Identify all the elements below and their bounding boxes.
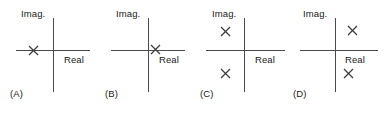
pole-marker-c-1 bbox=[220, 26, 231, 37]
real-axis bbox=[16, 50, 90, 51]
imaginary-axis-label: Imag. bbox=[116, 8, 140, 19]
imaginary-axis-label: Imag. bbox=[21, 8, 45, 19]
real-axis-label: Real bbox=[64, 54, 84, 65]
pole-marker-d-1 bbox=[347, 25, 358, 36]
imaginary-axis bbox=[53, 18, 54, 92]
real-axis bbox=[300, 50, 378, 51]
pole-marker-d-2 bbox=[343, 68, 354, 79]
panel-tag-a: (A) bbox=[10, 88, 23, 99]
real-axis bbox=[206, 50, 285, 51]
panel-tag-b: (B) bbox=[105, 88, 118, 99]
real-axis bbox=[111, 50, 185, 51]
panel-tag-c: (C) bbox=[200, 88, 214, 99]
imaginary-axis bbox=[335, 18, 336, 92]
real-axis-label: Real bbox=[255, 54, 275, 65]
real-axis-label: Real bbox=[345, 54, 365, 65]
imaginary-axis-label: Imag. bbox=[212, 8, 236, 19]
real-axis-label: Real bbox=[159, 54, 179, 65]
panel-b: Imag. Real (B) bbox=[95, 0, 192, 115]
imaginary-axis bbox=[244, 18, 245, 92]
panel-a: Imag. Real (A) bbox=[0, 0, 97, 115]
panel-d: Imag. Real (D) bbox=[285, 0, 382, 115]
pole-zero-figure: Imag. Real (A) Imag. Real (B) Imag. Real bbox=[0, 0, 390, 115]
imaginary-axis bbox=[148, 18, 149, 92]
imaginary-axis-label: Imag. bbox=[303, 8, 327, 19]
panel-tag-d: (D) bbox=[293, 88, 307, 99]
pole-marker-c-2 bbox=[220, 68, 231, 79]
panel-c: Imag. Real (C) bbox=[190, 0, 287, 115]
